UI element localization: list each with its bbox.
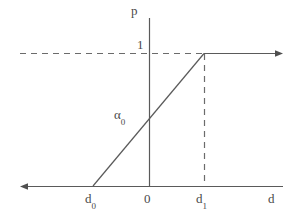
x-axis bbox=[20, 183, 283, 190]
x-axis-label: d bbox=[268, 192, 275, 205]
d1-subscript: 1 bbox=[203, 201, 208, 211]
alpha-glyph: α bbox=[114, 107, 121, 122]
d1-glyph: d bbox=[196, 191, 203, 206]
y-axis-label: p bbox=[131, 4, 138, 17]
alpha-zero-label: α0 bbox=[114, 108, 125, 125]
alpha-subscript: 0 bbox=[121, 117, 126, 127]
d0-subscript: 0 bbox=[92, 201, 97, 211]
y-tick-label-one: 1 bbox=[137, 38, 144, 51]
x-tick-label-origin: 0 bbox=[144, 192, 151, 205]
x-tick-label-d1: d1 bbox=[196, 192, 207, 209]
saturation-segment bbox=[204, 50, 283, 57]
saturation-right-arrow-icon bbox=[275, 50, 283, 57]
graph-canvas bbox=[0, 0, 295, 214]
x-axis-left-arrow-icon bbox=[20, 183, 28, 190]
d0-glyph: d bbox=[85, 191, 92, 206]
x-tick-label-d0: d0 bbox=[85, 192, 96, 209]
figure-container: p 1 α0 d0 0 d1 d bbox=[0, 0, 295, 214]
ramp-line bbox=[93, 54, 204, 187]
